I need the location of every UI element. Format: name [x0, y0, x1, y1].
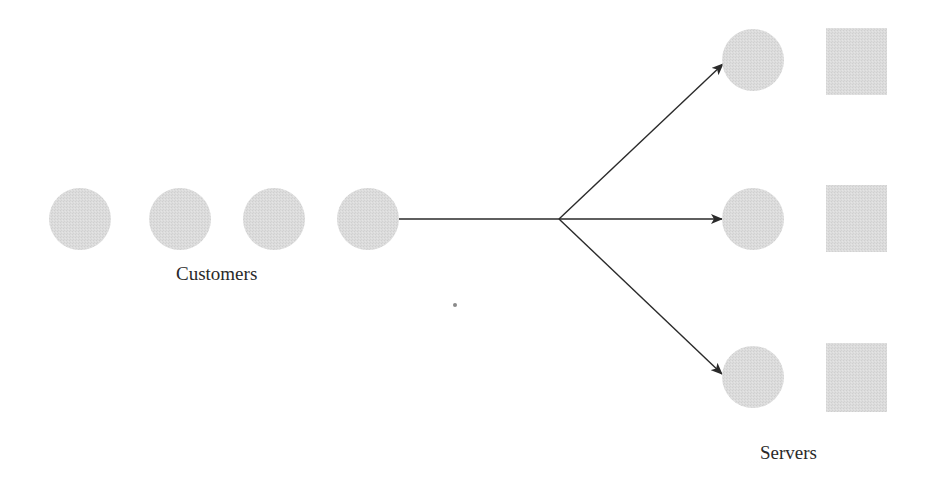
server-2: [722, 185, 887, 252]
scan-speck: [453, 303, 457, 307]
customer-circle-4: [337, 188, 399, 250]
server-3: [722, 343, 887, 412]
customer-in-service-1: [722, 29, 784, 91]
customers-label: Customers: [176, 264, 257, 283]
server-square-3: [826, 343, 887, 412]
server-square-1: [826, 28, 887, 95]
server-1: [722, 28, 887, 95]
customer-queue: [49, 188, 399, 250]
arrow-to-server-3: [559, 219, 722, 374]
customer-circle-2: [149, 188, 211, 250]
customer-in-service-3: [722, 346, 784, 408]
customer-circle-3: [243, 188, 305, 250]
queueing-diagram: [0, 0, 942, 490]
arrow-to-server-1: [559, 64, 723, 219]
customer-in-service-2: [722, 188, 784, 250]
customer-circle-1: [49, 188, 111, 250]
server-square-2: [826, 185, 887, 252]
servers-label: Servers: [760, 443, 817, 462]
flow-lines: [399, 64, 723, 374]
